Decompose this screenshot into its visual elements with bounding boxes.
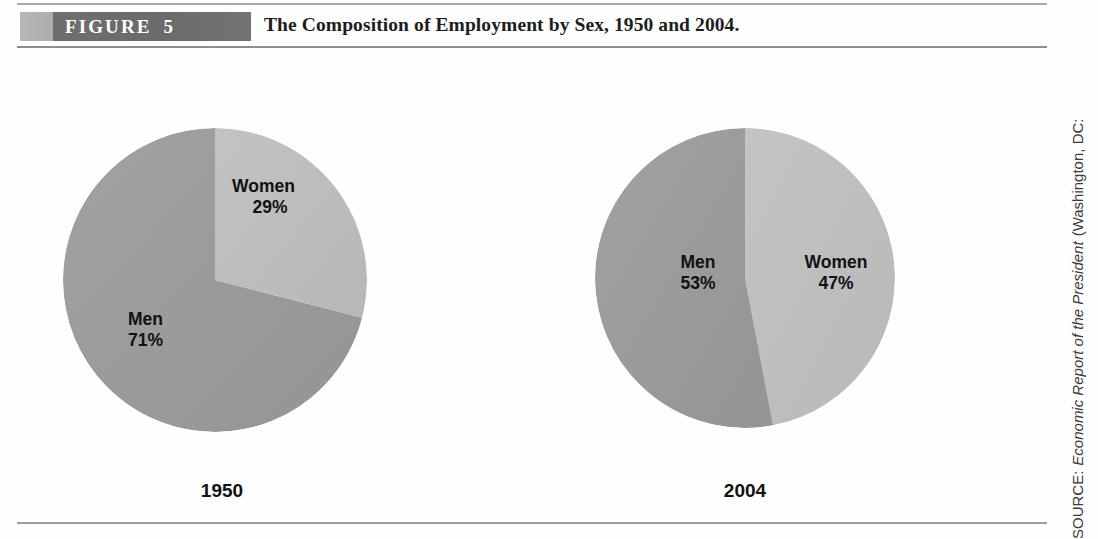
figure-badge-label: FIGURE	[65, 16, 152, 38]
figure-badge-swatch	[20, 12, 53, 41]
pie-1950-men-name: Men	[128, 309, 228, 330]
pie-1950-women-value: 29%	[232, 197, 308, 218]
source-note-tail: (Washington, DC:	[1069, 119, 1086, 237]
figure-badge-number: 5	[164, 16, 174, 38]
pie-chart-1950	[63, 128, 367, 432]
pie-1950-label-women: Women 29%	[232, 176, 352, 218]
figure-page: FIGURE 5 The Composition of Employment b…	[0, 0, 1098, 539]
pie-2004-year: 2004	[695, 480, 795, 502]
pie-2004-men-value: 53%	[655, 273, 741, 294]
figure-badge: FIGURE 5	[20, 12, 251, 41]
pie-1950-sheen	[100, 111, 340, 113]
pie-2004-women-value: 47%	[790, 273, 882, 294]
source-note-lead: SOURCE:	[1069, 471, 1086, 539]
pie-1950-men-value: 71%	[128, 330, 228, 351]
source-note: SOURCE: Economic Report of the President…	[1062, 0, 1092, 539]
figure-title: The Composition of Employment by Sex, 19…	[264, 14, 739, 36]
pie-1950-women-name: Women	[232, 176, 352, 197]
pie-2004-women-name: Women	[790, 252, 882, 273]
pie-1950-highlight-line	[97, 112, 333, 114]
divider-below-header	[17, 46, 1047, 48]
source-note-work: Economic Report of the President	[1069, 241, 1086, 465]
pie-2004-label-men: Men 53%	[655, 252, 741, 294]
divider-top	[17, 3, 1047, 5]
figure-badge-body: FIGURE 5	[53, 12, 251, 41]
pie-2004-men-name: Men	[655, 252, 741, 273]
pie-2004-sheen	[632, 111, 870, 113]
pie-1950-svg	[63, 128, 367, 432]
pie-1950-year: 1950	[172, 480, 272, 502]
pie-1950-label-men: Men 71%	[128, 309, 228, 351]
divider-bottom	[17, 522, 1047, 524]
pie-2004-label-women: Women 47%	[790, 252, 882, 294]
pie-1950-graphic	[63, 128, 367, 432]
